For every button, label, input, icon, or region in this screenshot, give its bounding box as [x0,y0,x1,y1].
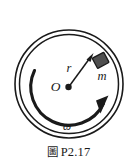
figure-container: O r m ω 圖P2.17 [0,0,138,164]
caption-figure-number: P2.17 [61,145,91,159]
rotating-disk-diagram: O r m ω [0,0,138,146]
label-radius: r [67,61,72,75]
mass-block [92,52,109,68]
label-mass: m [97,69,106,83]
center-dot [65,84,71,90]
label-angular-velocity: ω [63,120,71,132]
figure-caption: 圖P2.17 [0,143,138,160]
caption-figure-glyph: 圖 [47,145,60,159]
label-center: O [51,79,61,94]
rotation-arc [31,71,104,126]
radius-line [69,57,91,87]
